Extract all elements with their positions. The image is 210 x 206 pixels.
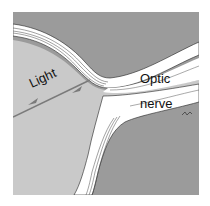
label-optic: Optic — [140, 72, 170, 85]
optic-nerve-diagram — [0, 0, 210, 206]
label-nerve: nerve — [140, 97, 173, 110]
